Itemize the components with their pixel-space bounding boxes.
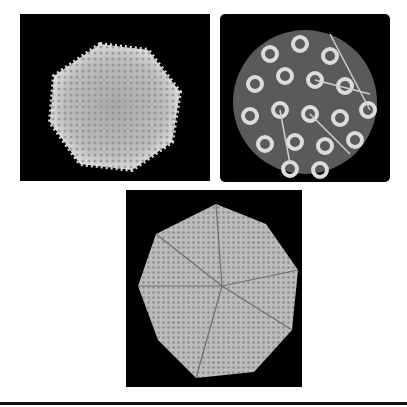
capsid-spiky-graphic <box>20 14 210 181</box>
bottom-rule <box>0 402 407 405</box>
capsid-image-granular <box>126 190 302 387</box>
capsid-image-spiky <box>20 14 210 181</box>
capsid-image-rings <box>220 14 390 182</box>
capsid-granular-graphic <box>126 190 302 387</box>
capsid-rings-graphic <box>220 14 390 182</box>
